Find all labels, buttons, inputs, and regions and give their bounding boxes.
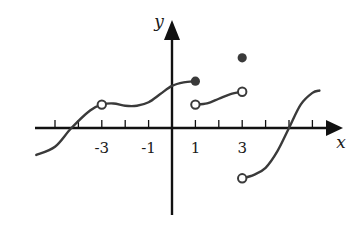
x-tick-label: -3 (94, 139, 109, 157)
curve-piece-2 (195, 92, 242, 105)
x-tick-label: 3 (237, 139, 247, 157)
plot-canvas: -3-113xy (0, 0, 364, 228)
open-circle-icon (238, 88, 246, 96)
filled-dot-icon (191, 77, 200, 86)
curve-piece-3 (242, 91, 319, 179)
labels: -3-113xy (94, 11, 346, 157)
open-circle-icon (238, 174, 246, 182)
curves (36, 81, 319, 178)
x-tick-label: -1 (141, 139, 156, 157)
y-axis-label: y (153, 11, 164, 31)
x-tick-label: 1 (191, 139, 201, 157)
filled-dot-icon (238, 53, 247, 62)
open-circle-icon (98, 100, 106, 108)
x-axis-label: x (336, 132, 346, 152)
function-graph: -3-113xy (0, 0, 364, 228)
open-circle-icon (191, 100, 199, 108)
y-axis-arrow-icon (164, 20, 180, 40)
